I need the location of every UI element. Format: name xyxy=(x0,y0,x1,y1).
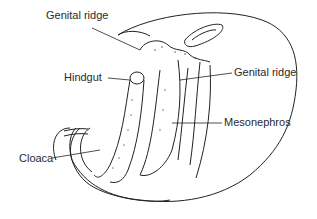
label-cloaca: Cloaca xyxy=(19,153,53,164)
label-hindgut: Hindgut xyxy=(64,72,102,83)
embryo-diagram: Genital ridge Hindgut Genital ridge Meso… xyxy=(0,0,317,219)
label-genital-ridge-top: Genital ridge xyxy=(46,10,108,21)
label-mesonephros: Mesonephros xyxy=(224,117,291,128)
label-genital-ridge-right: Genital ridge xyxy=(234,67,296,78)
embryo-illustration xyxy=(0,0,317,219)
